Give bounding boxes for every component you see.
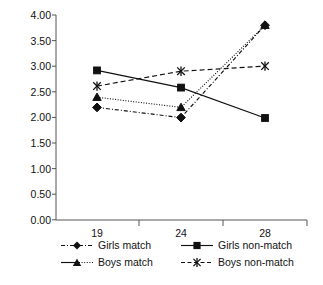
y-tick-label: 4.00	[31, 9, 52, 21]
legend-item-girls-match[interactable]: Girls match	[60, 240, 180, 251]
legend-swatch-girls-match	[60, 240, 94, 251]
data-point-marker-square	[178, 84, 185, 91]
legend-label: Boys non-match	[218, 257, 294, 268]
data-point-marker-triangle	[93, 93, 101, 100]
y-tick-label: 0.50	[31, 188, 52, 200]
y-tick-label: 2.00	[31, 111, 52, 123]
legend-swatch-boys-match	[60, 257, 94, 268]
y-axis-ticks	[52, 15, 56, 220]
legend-swatch-boys-non-match	[180, 257, 214, 268]
data-point-marker-diamond	[93, 103, 102, 112]
legend-item-girls-non-match[interactable]: Girls non-match	[180, 240, 308, 251]
y-tick-label: 1.00	[31, 163, 52, 175]
y-tick-label: 1.50	[31, 137, 52, 149]
y-tick-label: 3.50	[31, 35, 52, 47]
chart-legend: Girls match Girls non-match Boys match	[60, 237, 308, 271]
data-point-marker-square	[94, 67, 101, 74]
legend-label: Girls non-match	[218, 240, 292, 251]
y-axis-tick-labels: 4.00 3.50 3.00 2.50 2.00 1.50 1.00 0.50 …	[31, 9, 52, 226]
data-point-marker-x-star	[261, 61, 269, 70]
legend-item-boys-match[interactable]: Boys match	[60, 257, 180, 268]
data-point-marker-diamond	[177, 113, 186, 122]
legend-label: Girls match	[98, 240, 151, 251]
series-boys-match	[93, 21, 269, 111]
data-point-marker-square	[262, 115, 269, 122]
line-chart-figure: 4.00 3.50 3.00 2.50 2.00 1.50 1.00 0.50 …	[0, 0, 323, 285]
y-tick-label: 2.50	[31, 86, 52, 98]
y-tick-label: 3.00	[31, 60, 52, 72]
legend-label: Boys match	[98, 257, 153, 268]
legend-item-boys-non-match[interactable]: Boys non-match	[180, 257, 308, 268]
x-axis-ticks	[139, 220, 307, 226]
y-tick-label: 0.00	[31, 214, 52, 226]
legend-swatch-girls-non-match	[180, 240, 214, 251]
series-line-boys-match	[97, 25, 265, 107]
